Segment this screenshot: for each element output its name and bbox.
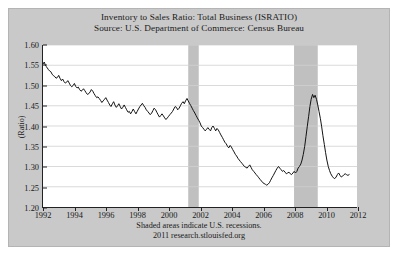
x-axis-tick-mark <box>75 207 76 211</box>
x-axis-tick-mark <box>232 207 233 211</box>
x-axis-tick-mark <box>358 207 359 211</box>
x-axis-tick-mark <box>327 207 328 211</box>
plot-area: 1.601.551.501.451.401.351.301.251.201992… <box>42 45 357 208</box>
x-axis-tick-label: 1998 <box>129 211 146 220</box>
x-axis-tick-label: 2000 <box>161 211 178 220</box>
x-axis-tick-mark <box>43 207 44 211</box>
y-axis-tick-mark <box>43 106 47 107</box>
recession-note: Shaded areas indicate U.S. recessions. <box>8 221 390 231</box>
x-axis-tick-label: 2012 <box>350 211 367 220</box>
y-axis-tick-mark <box>43 146 47 147</box>
y-axis-tick-mark <box>43 187 47 188</box>
y-axis-tick-mark <box>43 85 47 86</box>
y-axis-tick-label: 1.35 <box>24 142 39 151</box>
chart-screenshot: Inventory to Sales Ratio: Total Business… <box>0 0 399 257</box>
y-axis-tick-label: 1.25 <box>24 183 39 192</box>
x-axis-tick-mark <box>295 207 296 211</box>
y-axis-tick-label: 1.55 <box>24 61 39 70</box>
x-axis-tick-mark <box>201 207 202 211</box>
y-axis-tick-mark <box>43 65 47 66</box>
y-axis-tick-label: 1.40 <box>24 122 39 131</box>
chart-svg <box>43 45 357 207</box>
plot-area-wrapper: (Ratio) 1.601.551.501.451.401.351.301.25… <box>42 45 357 208</box>
x-axis-tick-label: 2006 <box>255 211 272 220</box>
x-axis-tick-label: 2008 <box>287 211 304 220</box>
chart-title-block: Inventory to Sales Ratio: Total Business… <box>8 12 390 34</box>
x-axis-tick-mark <box>264 207 265 211</box>
chart-footer-block: Shaded areas indicate U.S. recessions. 2… <box>8 221 390 241</box>
x-axis-tick-label: 1996 <box>98 211 115 220</box>
y-axis-tick-mark <box>43 126 47 127</box>
chart-source-line: 2011 research.stlouisfed.org <box>8 231 390 241</box>
x-axis-tick-label: 2010 <box>318 211 335 220</box>
x-axis-tick-label: 1994 <box>66 211 83 220</box>
y-axis-tick-label: 1.30 <box>24 163 39 172</box>
y-axis-tick-mark <box>43 45 47 46</box>
y-axis-tick-label: 1.60 <box>24 41 39 50</box>
chart-figure-panel: Inventory to Sales Ratio: Total Business… <box>8 8 390 247</box>
x-axis-tick-label: 2004 <box>224 211 241 220</box>
x-axis-tick-mark <box>138 207 139 211</box>
chart-subtitle: Source: U.S. Department of Commerce: Cen… <box>8 23 390 34</box>
x-axis-tick-label: 1992 <box>35 211 52 220</box>
y-axis-tick-label: 1.50 <box>24 81 39 90</box>
y-axis-tick-label: 1.45 <box>24 102 39 111</box>
x-axis-tick-mark <box>106 207 107 211</box>
y-axis-tick-mark <box>43 167 47 168</box>
x-axis-tick-label: 2002 <box>192 211 209 220</box>
chart-title: Inventory to Sales Ratio: Total Business… <box>8 12 390 23</box>
x-axis-tick-mark <box>169 207 170 211</box>
